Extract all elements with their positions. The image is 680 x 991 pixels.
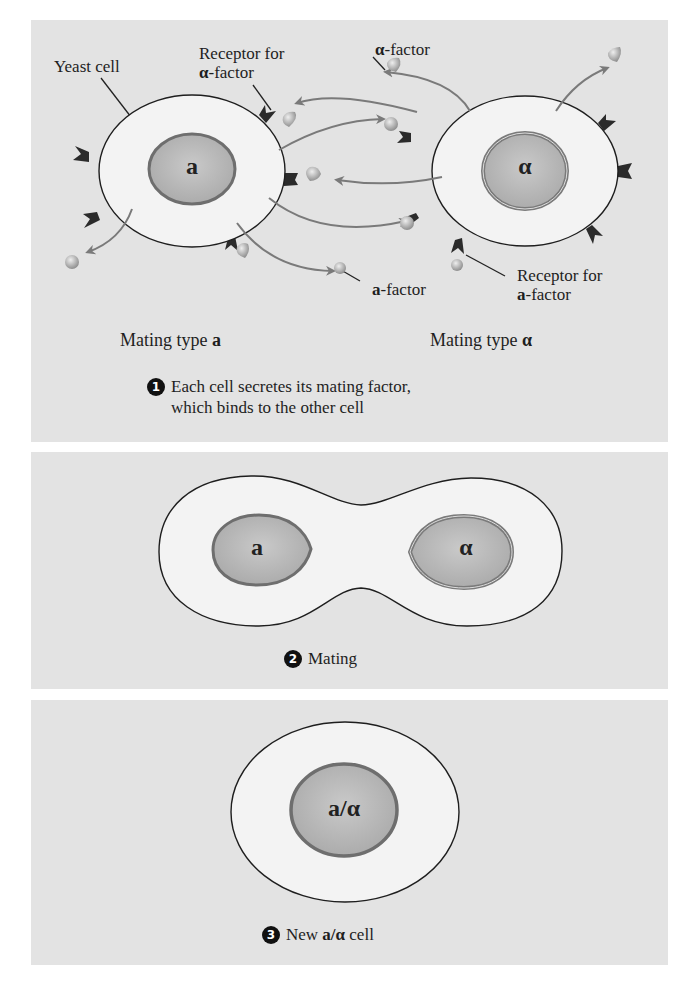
nucleus-label-a-alpha: a/α xyxy=(294,795,394,822)
receptor-a-leader xyxy=(466,255,505,276)
nucleus-label-a: a xyxy=(171,153,213,180)
receptor-alpha-leader xyxy=(253,85,271,110)
receptor-a-label-line2: a-factor xyxy=(517,285,571,304)
caption-line-1: Each cell secretes its mating factor, xyxy=(171,377,411,396)
alpha-symbol: α xyxy=(199,63,209,82)
yeast-cell-leader xyxy=(101,78,131,117)
step-3-caption: 3New a/α cell xyxy=(262,924,374,945)
alpha-factor-molecule xyxy=(608,47,621,62)
step-2-caption: 2Mating xyxy=(284,648,357,669)
a-factor-molecule xyxy=(451,259,463,271)
panel-mating: a α 2Mating xyxy=(31,452,668,689)
panel-diploid: a/α 3New a/α cell xyxy=(31,700,668,965)
alpha-factor-molecule xyxy=(237,243,249,258)
step-1-caption: 1Each cell secretes its mating factor, w… xyxy=(147,376,411,418)
mating-type-alpha-label: Mating type α xyxy=(430,331,532,350)
a-symbol: a xyxy=(212,330,221,350)
a-alpha-symbol: a/α xyxy=(322,925,345,944)
a-factor-molecule xyxy=(65,255,79,269)
receptor-a-label-line1: Receptor for xyxy=(517,266,602,285)
label-text: Mating type xyxy=(430,330,522,350)
yeast-cell-label: Yeast cell xyxy=(54,57,120,76)
nucleus-label-alpha: α xyxy=(445,534,487,561)
alpha-factor-molecule xyxy=(283,112,297,127)
a-factor-molecule xyxy=(334,262,346,274)
label-text: -factor xyxy=(526,285,571,304)
alpha-factor-molecule xyxy=(306,167,321,181)
alpha-factor-molecule xyxy=(387,58,401,72)
a-symbol: a xyxy=(372,280,381,299)
label-text: -factor xyxy=(209,63,254,82)
alpha-factor-label: α-factor xyxy=(375,40,430,59)
a-factor-molecule xyxy=(400,216,414,230)
receptor-alpha-label-line2: α-factor xyxy=(199,63,254,82)
a-factor-label: a-factor xyxy=(372,280,426,299)
step-number-badge: 3 xyxy=(262,926,280,944)
mating-type-a-label: Mating type a xyxy=(120,331,221,350)
label-text: Mating type xyxy=(120,330,212,350)
a-factor-molecule xyxy=(384,117,398,131)
label-text: -factor xyxy=(381,280,426,299)
caption-text: cell xyxy=(345,925,374,944)
alpha-symbol: α xyxy=(522,330,532,350)
step-number-badge: 2 xyxy=(284,650,302,668)
alpha-symbol: α xyxy=(375,40,385,59)
a-symbol: a xyxy=(517,285,526,304)
caption-text: Mating xyxy=(308,649,357,668)
label-text: -factor xyxy=(385,40,430,59)
nucleus-label-a: a xyxy=(236,534,278,561)
panel-secretion: a α Yeast cell Receptor for α-factor α-f… xyxy=(31,20,668,442)
step-number-badge: 1 xyxy=(147,378,165,396)
caption-text: New xyxy=(286,925,322,944)
nucleus-label-alpha: α xyxy=(504,153,546,180)
receptor-alpha-label-line1: Receptor for xyxy=(199,44,284,63)
caption-line-2: which binds to the other cell xyxy=(147,398,364,417)
